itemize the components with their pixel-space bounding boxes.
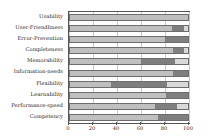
y-axis-label-error-prevention: Error-Prevention (0, 33, 66, 44)
bar-segment-positive[interactable] (69, 70, 173, 77)
y-axis-label-text: Usability (39, 14, 63, 19)
bar-row (69, 90, 189, 101)
bar-row (69, 56, 189, 67)
y-axis-label-text: Performance-speed (11, 103, 63, 108)
y-axis-label-text: User-Friendliness (15, 25, 63, 30)
y-axis-label-completeness: Completeness (0, 44, 66, 55)
x-axis: 020406080100 (68, 122, 188, 140)
bar-segment-positive[interactable] (69, 81, 111, 88)
stacked-bar[interactable] (69, 58, 189, 65)
bar-segment-neutral[interactable] (111, 81, 167, 88)
bar-segment-neutral[interactable] (173, 70, 189, 77)
y-axis-label-learnability: Learnability (0, 89, 66, 100)
x-axis-tick-label: 80 (161, 126, 168, 131)
x-axis-tick-label: 60 (137, 126, 144, 131)
bar-segment-neutral[interactable] (155, 103, 177, 110)
x-axis-tick-label: 40 (113, 126, 120, 131)
bar-series-container (69, 12, 189, 123)
bar-segment-positive[interactable] (69, 25, 172, 32)
y-axis-label-user-friendliness: User-Friendliness (0, 22, 66, 33)
stacked-bar[interactable] (69, 70, 189, 77)
y-axis-category-labels: Usability User-Friendliness Error-Preven… (0, 11, 66, 122)
y-axis-label-text: Completeness (25, 47, 63, 52)
bar-segment-negative[interactable] (184, 25, 189, 32)
bar-segment-positive[interactable] (69, 103, 155, 110)
bar-segment-negative[interactable] (175, 58, 189, 65)
bar-row (69, 23, 189, 34)
bar-segment-negative[interactable] (184, 47, 189, 54)
bar-segment-neutral[interactable] (166, 92, 189, 99)
y-axis-label-text: Error-Prevention (18, 36, 64, 41)
bar-row (69, 79, 189, 90)
stacked-bar[interactable] (69, 103, 189, 110)
y-axis-label-usability: Usability (0, 11, 66, 22)
bar-segment-positive[interactable] (69, 14, 189, 21)
y-axis-label-information-needs: Information-needs (0, 66, 66, 77)
y-axis-label-text: Competency (30, 114, 63, 119)
stacked-bar[interactable] (69, 114, 189, 121)
stacked-bar-chart: Usability User-Friendliness Error-Preven… (0, 0, 212, 140)
y-axis-label-text: Memorability (27, 58, 63, 63)
plot-area (68, 11, 190, 124)
x-axis-tick-label: 0 (66, 126, 69, 131)
y-axis-label-performance-speed: Performance-speed (0, 100, 66, 111)
stacked-bar[interactable] (69, 47, 189, 54)
y-axis-label-text: Information-needs (14, 69, 63, 74)
stacked-bar[interactable] (69, 81, 189, 88)
y-axis-label-competency: Competency (0, 111, 66, 122)
bar-row (69, 34, 189, 45)
x-axis-tick-label: 20 (89, 126, 96, 131)
bar-segment-negative[interactable] (177, 103, 189, 110)
bar-segment-neutral[interactable] (172, 25, 184, 32)
bar-row (69, 67, 189, 78)
y-axis-label-flexibility: Flexibility (0, 78, 66, 89)
stacked-bar[interactable] (69, 14, 189, 21)
bar-segment-positive[interactable] (69, 114, 158, 121)
grid-line (189, 12, 190, 123)
stacked-bar[interactable] (69, 92, 189, 99)
bar-segment-neutral[interactable] (173, 47, 184, 54)
bar-segment-negative[interactable] (167, 81, 189, 88)
bar-row (69, 101, 189, 112)
y-axis-label-text: Flexibility (36, 81, 63, 86)
stacked-bar[interactable] (69, 36, 189, 43)
bar-segment-neutral[interactable] (141, 58, 175, 65)
stacked-bar[interactable] (69, 25, 189, 32)
bar-segment-positive[interactable] (69, 36, 165, 43)
bar-segment-neutral[interactable] (165, 36, 189, 43)
bar-row (69, 12, 189, 23)
bar-segment-positive[interactable] (69, 92, 166, 99)
x-axis-tick-label: 100 (183, 126, 193, 131)
bar-segment-positive[interactable] (69, 58, 141, 65)
bar-segment-neutral[interactable] (158, 114, 189, 121)
y-axis-label-text: Learnability (31, 92, 63, 97)
bar-segment-positive[interactable] (69, 47, 173, 54)
y-axis-label-memorability: Memorability (0, 55, 66, 66)
bar-row (69, 45, 189, 56)
